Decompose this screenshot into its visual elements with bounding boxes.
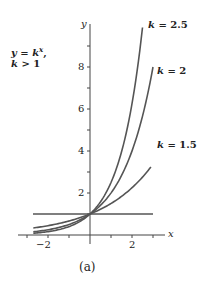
x-axis-label: x — [168, 228, 174, 239]
label-k-1.5: k = 1.5 — [157, 139, 197, 150]
title-k2: k — [11, 58, 18, 69]
label-k-2.5: k = 2.5 — [148, 19, 188, 30]
y-tick-label-8: 8 — [78, 61, 84, 72]
label-k-value: = 1.5 — [164, 139, 197, 150]
title-condition: > 1 — [18, 58, 40, 69]
x-tick-label-minus-2: −2 — [36, 239, 51, 250]
label-k: k — [157, 139, 164, 150]
curve-k-2 — [33, 67, 153, 232]
y-tick-label-6: 6 — [78, 103, 84, 114]
label-k: k — [157, 65, 164, 76]
label-k-2: k = 2 — [157, 65, 186, 76]
label-k-value: = 2 — [164, 65, 186, 76]
chart-title: y = kx, k > 1 — [11, 44, 47, 69]
label-k-value: = 2.5 — [155, 19, 188, 30]
figure-caption: (a) — [79, 262, 96, 273]
y-tick-label-2: 2 — [78, 187, 84, 198]
title-comma: , — [43, 47, 46, 58]
curve-k-1.5 — [33, 167, 151, 228]
title-equals: = — [17, 47, 32, 58]
y-axis-label: y — [81, 18, 87, 29]
y-tick-label-4: 4 — [78, 145, 84, 156]
label-k: k — [148, 19, 155, 30]
x-tick-label-2: 2 — [129, 239, 135, 250]
